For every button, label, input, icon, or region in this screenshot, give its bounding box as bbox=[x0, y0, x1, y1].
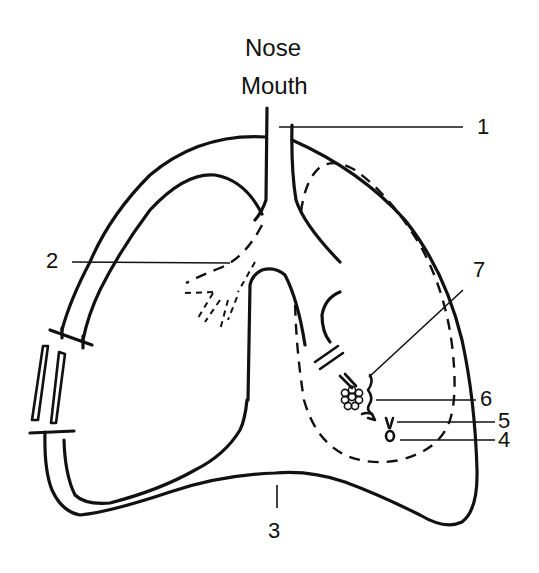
label-mouth: Mouth bbox=[241, 74, 308, 98]
structure-5-4 bbox=[386, 418, 394, 441]
break-marker bbox=[315, 346, 343, 369]
callout-6: 6 bbox=[480, 388, 492, 410]
callout-7: 7 bbox=[473, 259, 485, 281]
label-nose: Nose bbox=[245, 36, 301, 60]
cut-marks bbox=[30, 328, 92, 433]
callout-2: 2 bbox=[46, 250, 58, 272]
callout-lines bbox=[72, 127, 495, 508]
callout-5: 5 bbox=[498, 410, 510, 432]
alveoli-cluster bbox=[340, 374, 363, 410]
inner-lung-boundary bbox=[83, 175, 305, 400]
callout-3: 3 bbox=[268, 520, 280, 542]
trachea bbox=[255, 108, 340, 262]
right-bronchus-arc bbox=[322, 292, 340, 342]
outer-lung-boundary bbox=[45, 137, 477, 525]
callout-1: 1 bbox=[477, 116, 489, 138]
respiratory-diagram: Nose Mouth 1 2 3 4 5 6 7 bbox=[0, 0, 539, 573]
